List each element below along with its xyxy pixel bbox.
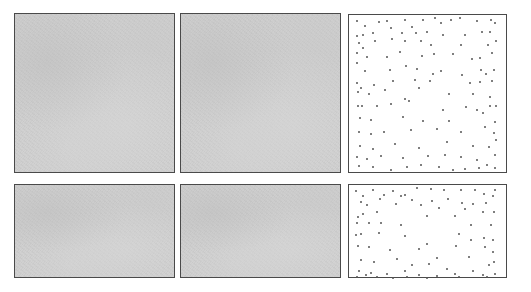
dot bbox=[404, 270, 406, 272]
dot bbox=[365, 274, 367, 276]
dot bbox=[476, 109, 478, 111]
dot bbox=[464, 168, 466, 170]
dot bbox=[478, 167, 480, 169]
dot bbox=[494, 167, 496, 169]
dot bbox=[362, 47, 364, 49]
dot bbox=[461, 202, 463, 204]
dot bbox=[366, 204, 368, 206]
dot bbox=[492, 239, 494, 241]
panel-bottom-middle bbox=[180, 184, 341, 278]
dot bbox=[390, 27, 392, 29]
dot bbox=[464, 208, 466, 210]
dot bbox=[459, 17, 461, 19]
dot bbox=[487, 44, 489, 46]
dot bbox=[402, 157, 404, 159]
dot bbox=[356, 276, 358, 278]
dot bbox=[357, 91, 359, 93]
panel-top-right bbox=[348, 14, 507, 173]
dot bbox=[357, 245, 359, 247]
dot bbox=[386, 273, 388, 275]
dot bbox=[458, 276, 460, 278]
dot bbox=[484, 126, 486, 128]
dot bbox=[434, 17, 436, 19]
dot bbox=[491, 80, 493, 82]
dot bbox=[432, 73, 434, 75]
dot bbox=[383, 194, 385, 196]
dot bbox=[374, 40, 376, 42]
dot bbox=[476, 159, 478, 161]
dot bbox=[368, 222, 370, 224]
dot bbox=[486, 164, 488, 166]
dot bbox=[471, 58, 473, 60]
dot bbox=[446, 141, 448, 143]
dot bbox=[359, 117, 361, 119]
dot bbox=[411, 199, 413, 201]
dot bbox=[389, 69, 391, 71]
dot bbox=[485, 73, 487, 75]
dot bbox=[362, 213, 364, 215]
dot bbox=[438, 166, 440, 168]
dot bbox=[404, 98, 406, 100]
dot bbox=[418, 274, 420, 276]
dot bbox=[415, 32, 417, 34]
dot bbox=[356, 222, 358, 224]
dot bbox=[373, 84, 375, 86]
dot bbox=[493, 261, 495, 263]
dot bbox=[494, 22, 496, 24]
dot bbox=[373, 261, 375, 263]
dot bbox=[474, 189, 476, 191]
dot bbox=[472, 270, 474, 272]
dot bbox=[376, 211, 378, 213]
dot bbox=[392, 277, 394, 279]
dot bbox=[482, 211, 484, 213]
dot bbox=[442, 34, 444, 36]
dot bbox=[401, 32, 403, 34]
dot bbox=[383, 131, 385, 133]
dot bbox=[392, 80, 394, 82]
dot bbox=[444, 154, 446, 156]
dot bbox=[366, 56, 368, 58]
panel-bottom-right bbox=[348, 184, 507, 278]
dot bbox=[472, 145, 474, 147]
dot bbox=[358, 165, 360, 167]
dot bbox=[431, 200, 433, 202]
dot bbox=[479, 57, 481, 59]
dot bbox=[391, 38, 393, 40]
dot bbox=[465, 106, 467, 108]
dot bbox=[438, 207, 440, 209]
dot bbox=[357, 216, 359, 218]
dot bbox=[495, 139, 497, 141]
dot bbox=[356, 156, 358, 158]
dot bbox=[372, 148, 374, 150]
dot bbox=[483, 237, 485, 239]
dot bbox=[394, 143, 396, 145]
dot bbox=[400, 195, 402, 197]
dot bbox=[359, 145, 361, 147]
dot bbox=[426, 31, 428, 33]
dot bbox=[494, 273, 496, 275]
panel-bottom-left bbox=[14, 184, 175, 278]
dot bbox=[436, 128, 438, 130]
dot bbox=[452, 53, 454, 55]
dot bbox=[376, 105, 378, 107]
dot bbox=[396, 258, 398, 260]
dot bbox=[472, 93, 474, 95]
dot bbox=[361, 105, 363, 107]
dot bbox=[384, 89, 386, 91]
dot bbox=[436, 275, 438, 277]
dot bbox=[484, 246, 486, 248]
dot bbox=[364, 70, 366, 72]
dot bbox=[366, 158, 368, 160]
dot bbox=[495, 105, 497, 107]
dot bbox=[368, 246, 370, 248]
dot bbox=[482, 112, 484, 114]
dot bbox=[358, 131, 360, 133]
dot bbox=[411, 264, 413, 266]
dot bbox=[421, 55, 423, 57]
dot bbox=[422, 19, 424, 21]
dot bbox=[399, 51, 401, 53]
dot bbox=[404, 19, 406, 21]
dot bbox=[400, 224, 402, 226]
dot bbox=[454, 215, 456, 217]
dot bbox=[402, 116, 404, 118]
